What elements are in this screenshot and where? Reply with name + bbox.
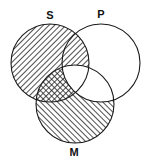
- label-p: P: [97, 8, 104, 20]
- label-s: S: [46, 9, 53, 21]
- venn-diagram: S P M: [0, 0, 147, 162]
- label-m: M: [69, 146, 78, 158]
